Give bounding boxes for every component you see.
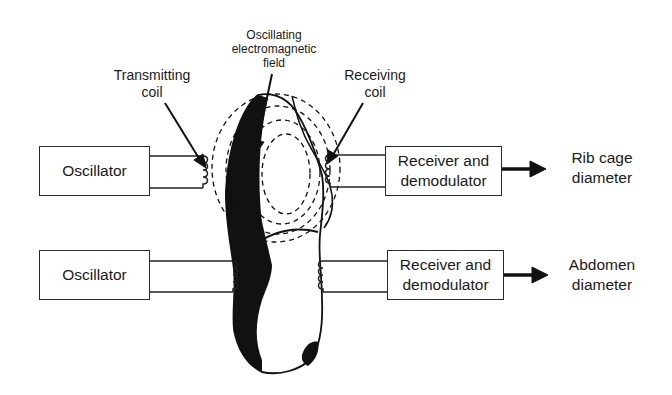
top-receiver-label: Receiver and demodulator xyxy=(391,151,496,191)
bottom-receive-wires xyxy=(319,261,388,292)
buttock-shading xyxy=(302,342,319,366)
rib-cage-arrowhead xyxy=(530,161,546,177)
bottom-receiver-box: Receiver and demodulator xyxy=(387,250,504,300)
abdomen-output-label: Abdomen diameter xyxy=(556,255,648,295)
receiving-coil-label: Receiving coil xyxy=(336,67,414,101)
transmitting-coil-pointer xyxy=(165,103,200,160)
receiving-coil-arrowhead xyxy=(327,150,338,164)
abdomen-arrowhead xyxy=(532,267,548,283)
bottom-oscillator-box: Oscillator xyxy=(39,250,150,300)
transmitting-coil-label: Transmitting coil xyxy=(104,67,200,101)
torso-back-shading xyxy=(226,95,272,372)
receiving-coil-pointer xyxy=(333,103,363,155)
bottom-transmit-wires xyxy=(150,261,238,292)
top-receive-wires xyxy=(326,155,386,187)
rib-cage-output-label: Rib cage diameter xyxy=(556,148,648,188)
output-arrows xyxy=(501,161,548,283)
top-receiver-box: Receiver and demodulator xyxy=(385,146,502,196)
top-oscillator-box: Oscillator xyxy=(39,146,150,196)
diagram-canvas xyxy=(0,0,672,395)
bottom-oscillator-label: Oscillator xyxy=(62,265,127,285)
bottom-receiver-label: Receiver and demodulator xyxy=(393,255,498,295)
top-oscillator-label: Oscillator xyxy=(62,161,127,181)
field-label: Oscillating electromagnetic field xyxy=(222,28,326,70)
